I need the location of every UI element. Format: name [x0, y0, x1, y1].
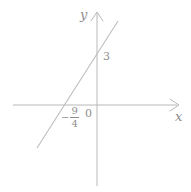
- fraction-numerator: 9: [70, 106, 78, 117]
- y-axis-label: y: [80, 8, 87, 21]
- y-intercept-label: 3: [103, 51, 110, 62]
- coordinate-plane-svg: [0, 0, 191, 192]
- x-intercept-minus-sign: −: [61, 113, 69, 123]
- graph-figure: y x 0 3 − 9 4: [0, 0, 191, 192]
- origin-label: 0: [85, 108, 92, 119]
- x-axis-label: x: [175, 110, 182, 123]
- fraction-denominator: 4: [70, 118, 78, 129]
- x-intercept-label: − 9 4: [61, 106, 79, 129]
- x-intercept-fraction: 9 4: [70, 106, 78, 129]
